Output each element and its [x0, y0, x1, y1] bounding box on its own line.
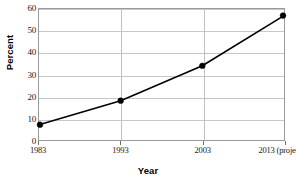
data-point-marker — [199, 63, 205, 69]
data-point-marker — [118, 98, 124, 104]
data-point-marker — [37, 122, 43, 128]
series-markers — [37, 13, 286, 128]
series-line — [39, 16, 284, 125]
y-tick-label: 30 — [12, 70, 36, 79]
plot-area — [38, 8, 285, 141]
x-tick-label: 2013 (projected) — [258, 146, 296, 155]
x-tick-label: 2003 — [195, 146, 211, 155]
y-axis-tick-labels: 0102030405060 — [12, 8, 36, 141]
y-tick-label: 50 — [12, 26, 36, 35]
y-tick-label: 40 — [12, 48, 36, 57]
x-tick-label: 1983 — [30, 146, 46, 155]
series-layer — [39, 9, 284, 140]
line-series-svg — [39, 9, 284, 140]
x-tick-label: 1993 — [112, 146, 128, 155]
data-point-marker — [280, 13, 286, 19]
y-tick-label: 20 — [12, 92, 36, 101]
y-tick-label: 60 — [12, 4, 36, 13]
x-axis-title: Year — [0, 165, 296, 176]
chart-screenshot: Percent 0102030405060 1983199320032013 (… — [0, 0, 296, 181]
y-tick-label: 10 — [12, 114, 36, 123]
